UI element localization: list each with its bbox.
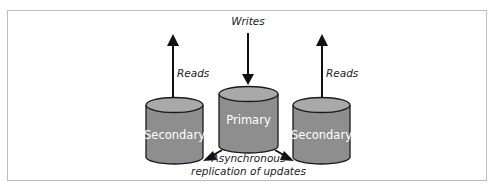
reads-arrow-left [167,34,179,98]
secondary-left-label: Secondary [144,128,205,142]
replication-diagram: Writes Reads Reads Secondary Primary Sec… [0,0,496,189]
replication-label-line1: Asynchronous [211,152,286,164]
reads-arrow-right [316,34,328,98]
replication-label-line2: replication of updates [191,165,306,177]
reads-label-left: Reads [177,67,210,79]
writes-arrow [242,33,254,85]
reads-label-right: Reads [326,67,359,79]
writes-label: Writes [231,15,265,27]
secondary-right-label: Secondary [291,128,352,142]
primary-label: Primary [226,113,271,127]
